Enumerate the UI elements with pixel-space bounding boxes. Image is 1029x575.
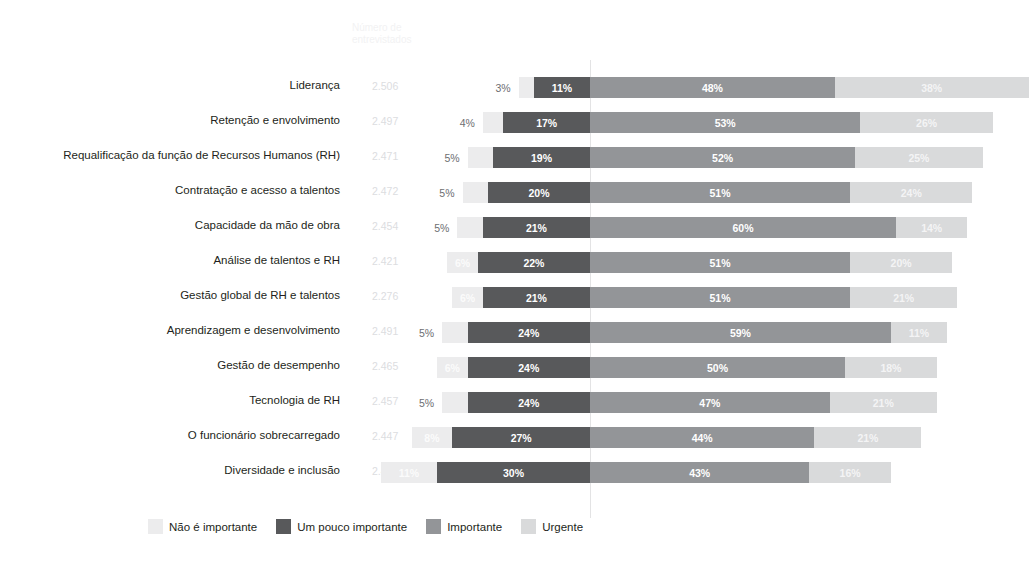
- bar-segment: 17%: [503, 112, 590, 133]
- bar-segment: 21%: [814, 427, 921, 448]
- row-respondent-count: 2.506: [372, 80, 428, 92]
- stacked-bar: 5%19%52%25%: [430, 147, 940, 168]
- row-respondent-count: 2.472: [372, 185, 428, 197]
- row-category-label: Gestão global de RH e talentos: [180, 289, 340, 301]
- bar-segment: 38%: [835, 77, 1029, 98]
- chart-row: Diversidade e inclusão2.41411%30%43%16%: [0, 455, 958, 490]
- stacked-bar: 6%22%51%20%: [430, 252, 940, 273]
- bar-segment: [457, 217, 483, 238]
- legend-label: Não é importante: [169, 521, 257, 533]
- legend-label: Urgente: [542, 521, 583, 533]
- chart-row: Tecnologia de RH2.4575%24%47%21%: [0, 385, 958, 420]
- bar-segment: [442, 392, 468, 413]
- chart-row: Gestão global de RH e talentos2.2766%21%…: [0, 280, 958, 315]
- row-category-label: Retenção e envolvimento: [210, 114, 340, 126]
- legend-swatch-icon: [276, 519, 291, 534]
- chart-row: Análise de talentos e RH2.4216%22%51%20%: [0, 245, 958, 280]
- legend-label: Um pouco importante: [297, 521, 407, 533]
- bar-segment: 27%: [452, 427, 590, 448]
- stacked-bar: 5%24%47%21%: [430, 392, 940, 413]
- legend-item[interactable]: Urgente: [521, 519, 583, 534]
- bar-segment-outside-label: 3%: [485, 77, 515, 98]
- legend-item[interactable]: Um pouco importante: [276, 519, 407, 534]
- row-category-label: Liderança: [289, 79, 340, 91]
- bar-segment: 16%: [809, 462, 891, 483]
- bar-segment: 48%: [590, 77, 835, 98]
- bar-segment: 21%: [483, 287, 590, 308]
- bar-segment: [442, 322, 468, 343]
- legend-swatch-icon: [426, 519, 441, 534]
- bar-segment: 11%: [381, 462, 437, 483]
- respondents-column-header: Número de entrevistados: [352, 22, 442, 46]
- row-respondent-count: 2.465: [372, 360, 428, 372]
- stacked-bar: 4%17%53%26%: [430, 112, 940, 133]
- bar-segment: 51%: [590, 252, 850, 273]
- bar-segment: 21%: [830, 392, 937, 413]
- bar-segment: 24%: [468, 322, 590, 343]
- row-category-label: O funcionário sobrecarregado: [188, 429, 340, 441]
- row-category-label: Aprendizagem e desenvolvimento: [167, 324, 340, 336]
- bar-segment: 24%: [468, 357, 590, 378]
- chart-legend: Não é importanteUm pouco importanteImpor…: [148, 519, 595, 534]
- bar-segment: 21%: [850, 287, 957, 308]
- chart-row: Requalificação da função de Recursos Hum…: [0, 140, 958, 175]
- bar-segment: 6%: [447, 252, 478, 273]
- row-respondent-count: 2.421: [372, 255, 428, 267]
- row-respondent-count: 2.276: [372, 290, 428, 302]
- bar-segment: 24%: [850, 182, 972, 203]
- chart-row: O funcionário sobrecarregado2.4478%27%44…: [0, 420, 958, 455]
- bar-segment: 21%: [483, 217, 590, 238]
- bar-segment-outside-label: 5%: [423, 217, 453, 238]
- stacked-bar: 11%30%43%16%: [430, 462, 940, 483]
- legend-swatch-icon: [521, 519, 536, 534]
- legend-swatch-icon: [148, 519, 163, 534]
- legend-item[interactable]: Importante: [426, 519, 502, 534]
- bar-segment: [468, 147, 494, 168]
- bar-segment-outside-label: 4%: [449, 112, 479, 133]
- chart-row: Retenção e envolvimento2.4974%17%53%26%: [0, 105, 958, 140]
- bar-segment: 20%: [488, 182, 590, 203]
- stacked-bar: 5%24%59%11%: [430, 322, 940, 343]
- bar-segment: 25%: [855, 147, 983, 168]
- bar-segment: 22%: [478, 252, 590, 273]
- bar-segment: 8%: [412, 427, 453, 448]
- stacked-bar: 5%21%60%14%: [430, 217, 940, 238]
- chart-rows: Liderança2.5063%11%48%38%Retenção e envo…: [0, 70, 958, 490]
- bar-segment: 14%: [896, 217, 967, 238]
- bar-segment: 53%: [590, 112, 860, 133]
- bar-segment: 26%: [860, 112, 993, 133]
- stacked-bar: 5%20%51%24%: [430, 182, 940, 203]
- bar-segment: 30%: [437, 462, 590, 483]
- bar-segment: 18%: [845, 357, 937, 378]
- bar-segment-outside-label: 5%: [408, 392, 438, 413]
- stacked-bar: 8%27%44%21%: [430, 427, 940, 448]
- row-category-label: Tecnologia de RH: [249, 394, 340, 406]
- row-category-label: Diversidade e inclusão: [224, 464, 340, 476]
- chart-row: Aprendizagem e desenvolvimento2.4915%24%…: [0, 315, 958, 350]
- bar-segment: [519, 77, 534, 98]
- chart-row: Liderança2.5063%11%48%38%: [0, 70, 958, 105]
- bar-segment: 59%: [590, 322, 891, 343]
- bar-segment: 51%: [590, 287, 850, 308]
- legend-item[interactable]: Não é importante: [148, 519, 257, 534]
- bar-segment: 11%: [891, 322, 947, 343]
- row-category-label: Capacidade da mão de obra: [195, 219, 340, 231]
- chart-row: Gestão de desempenho2.4656%24%50%18%: [0, 350, 958, 385]
- row-respondent-count: 2.454: [372, 220, 428, 232]
- bar-segment: 24%: [468, 392, 590, 413]
- bar-segment: 51%: [590, 182, 850, 203]
- bar-segment-outside-label: 5%: [429, 182, 459, 203]
- bar-segment-outside-label: 5%: [434, 147, 464, 168]
- bar-segment: 6%: [452, 287, 483, 308]
- stacked-bar: 6%21%51%21%: [430, 287, 940, 308]
- bar-segment: 50%: [590, 357, 845, 378]
- row-respondent-count: 2.497: [372, 115, 428, 127]
- bar-segment: 52%: [590, 147, 855, 168]
- chart-row: Contratação e acesso a talentos2.4725%20…: [0, 175, 958, 210]
- bar-segment: 11%: [534, 77, 590, 98]
- row-category-label: Contratação e acesso a talentos: [175, 184, 340, 196]
- row-category-label: Análise de talentos e RH: [213, 254, 340, 266]
- bar-segment: [483, 112, 503, 133]
- bar-segment: [463, 182, 489, 203]
- row-respondent-count: 2.471: [372, 150, 428, 162]
